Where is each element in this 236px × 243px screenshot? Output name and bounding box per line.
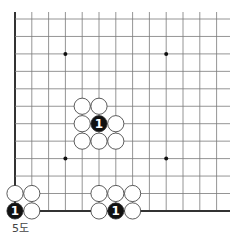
diagram-caption: 5도 <box>12 219 29 235</box>
white-stone-disc <box>7 185 23 201</box>
white-stone-disc <box>108 185 124 201</box>
black-stone: 1 <box>91 116 107 132</box>
white-stone <box>91 133 107 149</box>
white-stone <box>125 203 141 219</box>
star-point <box>63 52 67 56</box>
white-stone-disc <box>74 98 90 114</box>
white-stone-disc <box>91 203 107 219</box>
white-stone-disc <box>74 116 90 132</box>
white-stone-disc <box>91 98 107 114</box>
white-stone <box>125 185 141 201</box>
white-stone <box>24 203 40 219</box>
white-stone-disc <box>91 133 107 149</box>
white-stone <box>74 98 90 114</box>
white-stone <box>108 116 124 132</box>
white-stone-disc <box>125 185 141 201</box>
white-stone <box>24 185 40 201</box>
white-stone-disc <box>74 133 90 149</box>
stone-move-number: 1 <box>112 204 120 218</box>
star-point <box>63 157 67 161</box>
white-stone <box>74 116 90 132</box>
white-stone-disc <box>91 185 107 201</box>
white-stone-disc <box>24 185 40 201</box>
black-stone: 1 <box>108 203 124 219</box>
white-stone <box>91 203 107 219</box>
white-stone <box>108 185 124 201</box>
white-stone <box>91 185 107 201</box>
white-stone <box>74 133 90 149</box>
star-point <box>164 157 168 161</box>
go-board: 111 <box>0 0 236 243</box>
white-stone-disc <box>108 133 124 149</box>
board-grid <box>15 12 230 211</box>
white-stone-disc <box>108 116 124 132</box>
white-stone <box>91 98 107 114</box>
stone-move-number: 1 <box>11 204 19 218</box>
white-stone <box>108 133 124 149</box>
white-stone <box>7 185 23 201</box>
black-stone: 1 <box>7 203 23 219</box>
stone-move-number: 1 <box>95 117 103 131</box>
white-stone-disc <box>24 203 40 219</box>
white-stone-disc <box>125 203 141 219</box>
star-point <box>164 52 168 56</box>
